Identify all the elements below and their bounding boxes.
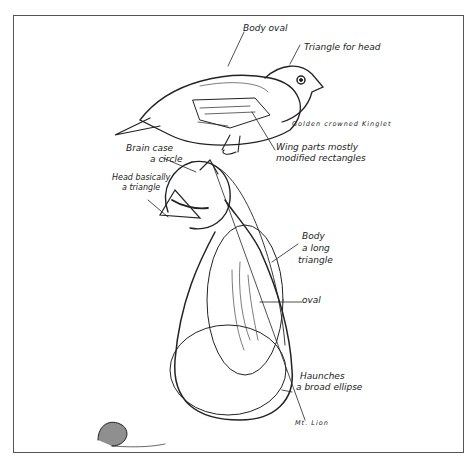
label-head-triangle-2: a triangle <box>122 184 160 193</box>
label-brain-case-2: a circle <box>150 155 183 165</box>
lion-sketch <box>98 160 305 447</box>
label-wing-parts-1: Wing parts mostly <box>276 143 358 153</box>
bird-sketch <box>115 66 323 154</box>
label-triangle-head: Triangle for head <box>304 43 381 53</box>
label-head-triangle-1: Head basically <box>112 174 170 183</box>
label-haunches-1: Haunches <box>300 372 345 382</box>
label-body-long-triangle-3: triangle <box>298 256 333 266</box>
lion-species-name: Mt. Lion <box>295 420 329 427</box>
label-oval: oval <box>302 296 321 306</box>
bird-species-name: Golden crowned Kinglet <box>292 121 392 128</box>
label-body-oval: Body oval <box>243 24 287 34</box>
label-brain-case-1: Brain case <box>126 144 173 154</box>
label-haunches-2: a broad ellipse <box>296 383 362 393</box>
label-wing-parts-2: modified rectangles <box>276 154 366 164</box>
sketch-illustration <box>0 0 475 458</box>
label-body-long-triangle-1: Body <box>302 232 325 242</box>
label-body-long-triangle-2: a long <box>302 244 330 254</box>
